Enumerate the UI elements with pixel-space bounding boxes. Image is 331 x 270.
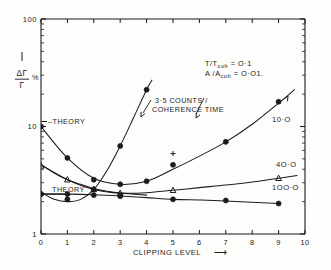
y-axis-label: ΔΓΓ% (15, 52, 39, 90)
figure-canvas: 012345678910110100T/Tcoh = O·1A /Acoh = … (0, 0, 331, 270)
x-tick-label: 9 (276, 238, 281, 247)
curve-label-10: 10·O (272, 115, 291, 124)
y-axis-label-numerator: ΔΓ (17, 69, 28, 78)
theory-label-lower: THEORY (52, 185, 85, 194)
x-tick-label: 0 (39, 238, 44, 247)
data-point-circle (118, 143, 123, 148)
counts-label-line2: COHERENCE TIME (152, 105, 224, 114)
param-line-a-acoh: A /Acoh = O·O1. (205, 69, 264, 79)
x-tick-label: 6 (197, 238, 202, 247)
x-axis-label-arrow: ⟶ (214, 247, 228, 257)
curve-label-100: 1OO·O (272, 183, 299, 192)
data-point-circle (144, 179, 149, 184)
data-point-circle (171, 197, 176, 202)
y-tick-label: 10 (28, 122, 37, 131)
x-tick-label: 3 (118, 238, 123, 247)
plot-svg: 012345678910110100T/Tcoh = O·1A /Acoh = … (0, 0, 331, 270)
data-point-circle (276, 201, 281, 206)
x-tick-label: 10 (300, 238, 309, 247)
data-point-circle (223, 198, 228, 203)
data-point-circle (276, 99, 281, 104)
x-tick-label: 2 (91, 238, 96, 247)
data-point-circle (144, 87, 149, 92)
y-tick-label: 1 (32, 230, 37, 239)
x-tick-label: 4 (144, 238, 149, 247)
curve-label-40: 4O·O (276, 160, 297, 169)
data-point-circle (91, 177, 96, 182)
y-axis-ticks: 110100 (23, 15, 305, 239)
annotations: T/Tcoh = O·1A /Acoh = O·O1.3·5 COUNTS /C… (42, 59, 299, 194)
x-tick-label: 7 (223, 238, 228, 247)
x-axis-label: CLIPPING LEVEL⟶ (133, 247, 228, 257)
x-axis-ticks: 012345678910 (39, 19, 310, 247)
series-plus-points (170, 139, 228, 156)
series-curve (41, 194, 279, 203)
data-point-circle (39, 124, 44, 129)
data-point-circle (171, 162, 176, 167)
y-tick-label: 100 (23, 15, 37, 24)
x-tick-label: 5 (171, 238, 176, 247)
x-axis-label-text: CLIPPING LEVEL (133, 248, 201, 257)
data-point-circle (91, 193, 96, 198)
y-axis-label-denominator: Γ (19, 81, 24, 90)
data-point-circle (65, 197, 70, 202)
data-point-circle (118, 182, 123, 187)
param-line-t-tcoh: T/Tcoh = O·1 (205, 59, 252, 69)
x-tick-label: 1 (65, 238, 70, 247)
data-point-circle (118, 194, 123, 199)
counts-label-line1: 3·5 COUNTS / (155, 96, 208, 105)
counts-leader-left (143, 100, 151, 113)
theory-label-upper: –THEORY (48, 117, 85, 126)
x-tick-label: 8 (250, 238, 255, 247)
y-axis-label-percent: % (32, 73, 39, 82)
data-point-circle (65, 155, 70, 160)
